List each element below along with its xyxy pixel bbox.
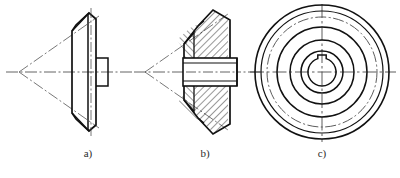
- caption-a: a): [84, 147, 93, 160]
- technical-drawing-figure: a) b): [0, 0, 400, 178]
- bevel-gear-drawing-svg: a) b): [0, 0, 400, 178]
- caption-c: c): [318, 147, 327, 160]
- caption-b: b): [200, 147, 210, 160]
